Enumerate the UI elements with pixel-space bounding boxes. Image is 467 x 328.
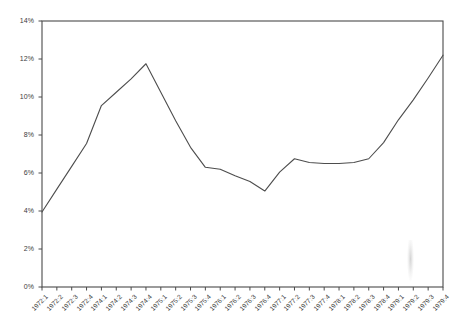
line-chart: 0%2%4%6%8%10%12%14% 1972:11972:21972:319… — [0, 0, 467, 328]
y-tick-label: 10% — [0, 93, 34, 100]
y-tick-label: 14% — [0, 17, 34, 24]
y-tick-label: 12% — [0, 55, 34, 62]
y-tick-label: 6% — [0, 169, 34, 176]
y-tick-label: 8% — [0, 131, 34, 138]
y-tick-label: 2% — [0, 245, 34, 252]
chart-background — [0, 0, 467, 328]
chart-canvas — [0, 0, 467, 328]
y-tick-label: 0% — [0, 283, 34, 290]
y-tick-label: 4% — [0, 207, 34, 214]
